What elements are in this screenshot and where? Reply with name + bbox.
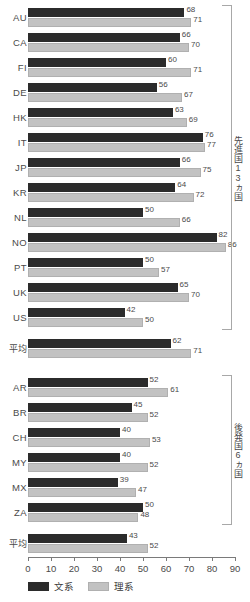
x-axis-tick (212, 557, 213, 561)
category-label: MY (0, 450, 27, 475)
bar-value-label: 64 (177, 180, 186, 189)
bar-理系 (28, 243, 226, 252)
category-label: BR (0, 400, 27, 425)
x-axis-tick-label: 50 (133, 563, 153, 574)
chart-row: BR4552 (0, 400, 250, 425)
category-label: UK (0, 280, 27, 305)
bar-理系 (28, 513, 138, 522)
bar-value-label: 50 (145, 315, 154, 324)
bar-理系 (28, 143, 205, 152)
x-axis-line (28, 557, 235, 558)
bar-理系 (28, 318, 143, 327)
bar-文系 (28, 233, 217, 242)
bar-value-label: 67 (184, 90, 193, 99)
bar-value-label: 43 (129, 531, 138, 540)
bar-理系 (28, 118, 187, 127)
x-axis-tick-label: 90 (225, 563, 245, 574)
bar-value-label: 71 (193, 346, 202, 355)
bracket-tick-top (222, 5, 232, 6)
x-axis-tick-label: 70 (179, 563, 199, 574)
bar-value-label: 52 (150, 410, 159, 419)
bracket-line (231, 375, 232, 525)
bar-group: 3947 (28, 475, 250, 500)
bar-group: 5261 (28, 375, 250, 400)
x-axis-tick (74, 557, 75, 561)
bar-group: 8286 (28, 230, 250, 255)
bar-理系 (28, 438, 150, 447)
bar-文系 (28, 108, 173, 117)
chart-row: MY4052 (0, 450, 250, 475)
bar-group: 6570 (28, 280, 250, 305)
bar-value-label: 66 (182, 155, 191, 164)
chart-row: PT5057 (0, 255, 250, 280)
chart-row: AU6871 (0, 5, 250, 30)
bar-group: 6670 (28, 30, 250, 55)
legend-swatch (88, 582, 109, 591)
bar-文系 (28, 158, 180, 167)
bar-value-label: 56 (159, 80, 168, 89)
x-axis-tick-label: 30 (87, 563, 107, 574)
bar-value-label: 47 (138, 485, 147, 494)
x-axis-tick (97, 557, 98, 561)
bar-文系 (28, 378, 148, 387)
bar-group: 6369 (28, 105, 250, 130)
bar-value-label: 48 (140, 510, 149, 519)
chart-row: ZA5048 (0, 500, 250, 525)
bar-文系 (28, 58, 166, 67)
bar-value-label: 76 (205, 130, 214, 139)
bar-value-label: 50 (145, 500, 154, 509)
x-axis-tick-label: 40 (110, 563, 130, 574)
bracket-tick-bottom (222, 329, 232, 330)
bar-文系 (28, 403, 132, 412)
x-axis-tick (120, 557, 121, 561)
category-label: KR (0, 180, 27, 205)
category-label: HK (0, 105, 27, 130)
bar-value-label: 61 (170, 385, 179, 394)
bar-理系 (28, 488, 136, 497)
chart-row: KR6472 (0, 180, 250, 205)
bar-文系 (28, 503, 143, 512)
bar-value-label: 52 (150, 375, 159, 384)
chart-row: DE5667 (0, 80, 250, 105)
bar-文系 (28, 83, 157, 92)
chart-row: MX3947 (0, 475, 250, 500)
x-axis-tick-label: 60 (156, 563, 176, 574)
bar-value-label: 60 (168, 55, 177, 64)
bar-文系 (28, 478, 118, 487)
chart-row: HK6369 (0, 105, 250, 130)
category-label: 平均 (0, 531, 27, 556)
bar-group: 6271 (28, 336, 250, 361)
bar-value-label: 50 (145, 205, 154, 214)
bar-理系 (28, 463, 148, 472)
bar-value-label: 40 (122, 450, 131, 459)
bracket-tick-top (222, 375, 232, 376)
chart-row: UK6570 (0, 280, 250, 305)
bar-文系 (28, 33, 180, 42)
bar-理系 (28, 293, 189, 302)
bar-理系 (28, 168, 201, 177)
bar-文系 (28, 133, 203, 142)
bar-理系 (28, 388, 168, 397)
bar-文系 (28, 208, 143, 217)
chart-row: IT7677 (0, 130, 250, 155)
chart-row: AR5261 (0, 375, 250, 400)
category-label: PT (0, 255, 27, 280)
bar-group: 5667 (28, 80, 250, 105)
legend-item: 文系 (28, 579, 74, 593)
bracket-tick-bottom (222, 524, 232, 525)
chart-row: JP6675 (0, 155, 250, 180)
chart-row: FI6071 (0, 55, 250, 80)
bar-value-label: 66 (182, 215, 191, 224)
bar-group: 6675 (28, 155, 250, 180)
category-label: MX (0, 475, 27, 500)
bar-group: 6871 (28, 5, 250, 30)
legend-item: 理系 (88, 579, 134, 593)
bar-文系 (28, 183, 175, 192)
bar-group: 4053 (28, 425, 250, 450)
bar-group: 4250 (28, 305, 250, 330)
bar-group: 7677 (28, 130, 250, 155)
bar-理系 (28, 43, 189, 52)
bar-group: 4052 (28, 450, 250, 475)
bar-value-label: 66 (182, 30, 191, 39)
bar-group: 5048 (28, 500, 250, 525)
